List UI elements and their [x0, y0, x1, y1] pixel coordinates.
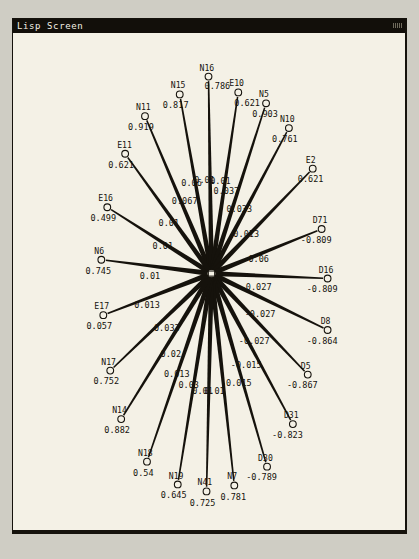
node-circle-icon[interactable] [286, 125, 293, 132]
graph-node[interactable]: E170.057 [86, 301, 112, 331]
edge-weight-label: -0.027 [245, 309, 276, 319]
node-value-label: 0.903 [252, 109, 278, 119]
edge-weight-label: 0.067 [172, 196, 198, 206]
node-name-label: N41 [198, 477, 213, 487]
graph-node[interactable]: E100.621 [229, 78, 260, 108]
node-value-label: -0.867 [287, 380, 318, 390]
node-name-label: N18 [138, 448, 153, 458]
edge-weight-label: -0.015 [231, 360, 262, 370]
node-value-label: 0.817 [163, 100, 189, 110]
node-name-label: D16 [319, 265, 334, 275]
edge-weight-label: 0.01 [210, 176, 231, 186]
node-name-label: N16 [200, 63, 215, 73]
node-circle-icon[interactable] [100, 312, 107, 319]
node-name-label: E10 [229, 78, 244, 88]
node-circle-icon[interactable] [263, 100, 270, 107]
node-name-label: D31 [284, 410, 299, 420]
node-circle-icon[interactable] [205, 73, 212, 80]
node-circle-icon[interactable] [142, 113, 149, 120]
node-value-label: 0.781 [220, 492, 246, 502]
node-circle-icon[interactable] [107, 367, 114, 374]
node-name-label: D8 [321, 316, 331, 326]
graph-canvas[interactable]: 0.0670.060.010.010.0370.0330.013-0.06-0.… [13, 33, 405, 530]
node-value-label: 0.761 [272, 134, 298, 144]
node-circle-icon[interactable] [144, 458, 151, 465]
node-circle-icon[interactable] [324, 275, 331, 282]
node-circle-icon[interactable] [98, 256, 105, 263]
node-circle-icon[interactable] [174, 481, 181, 488]
graph-edge [214, 273, 324, 329]
edge-weight-label: 0.01 [153, 241, 174, 251]
node-circle-icon[interactable] [289, 421, 296, 428]
node-value-label: -0.809 [301, 235, 332, 245]
node-name-label: N15 [171, 80, 186, 90]
graph-node[interactable]: E110.621 [108, 140, 134, 170]
node-circle-icon[interactable] [304, 371, 311, 378]
node-value-label: 0.745 [85, 266, 111, 276]
edge-weight-label: -0.027 [239, 336, 270, 346]
node-circle-icon[interactable] [176, 91, 183, 98]
node-value-label: -0.809 [307, 284, 338, 294]
lisp-screen-window: Lisp Screen 0.0670.060.010.010.0370.0330… [12, 18, 407, 534]
graph-node[interactable]: E20.621 [298, 155, 324, 185]
edge-weight-label: -0.027 [241, 282, 272, 292]
graph-node[interactable]: N190.645 [161, 471, 187, 501]
graph-node[interactable]: E160.499 [90, 193, 116, 223]
node-value-label: 0.786 [205, 81, 231, 91]
graph-node[interactable]: D71-0.809 [301, 215, 332, 245]
node-name-label: N19 [169, 471, 184, 481]
node-circle-icon[interactable] [104, 204, 111, 211]
radial-graph-svg[interactable]: 0.0670.060.010.010.0370.0330.013-0.06-0.… [13, 33, 405, 530]
node-circle-icon[interactable] [309, 165, 316, 172]
graph-node[interactable]: N150.817 [163, 80, 189, 110]
graph-node[interactable]: N180.54 [133, 448, 154, 478]
graph-node[interactable]: N110.919 [128, 102, 154, 132]
graph-node[interactable]: N170.752 [93, 357, 119, 387]
hub-node-circle-icon[interactable] [208, 271, 214, 276]
node-circle-icon[interactable] [264, 463, 271, 470]
node-name-label: D30 [258, 453, 273, 463]
edge-weight-label: 0.013 [134, 300, 160, 310]
graph-node[interactable]: D5-0.867 [287, 361, 318, 391]
edge-weight-label: -0.06 [243, 254, 269, 264]
node-circle-icon[interactable] [118, 416, 125, 423]
node-circle-icon[interactable] [122, 150, 129, 157]
edge-weight-label: 0.033 [154, 323, 180, 333]
node-name-label: N5 [259, 89, 269, 99]
hub-node-value-label: 0.89 [201, 277, 222, 287]
graph-node[interactable]: N410.725 [190, 477, 216, 508]
node-value-label: 0.919 [128, 122, 154, 132]
graph-node[interactable]: N140.882 [104, 405, 130, 435]
graph-node[interactable]: D8-0.864 [307, 316, 338, 346]
node-value-label: -0.864 [307, 336, 338, 346]
node-value-label: 0.725 [190, 498, 216, 508]
edge-weight-label: 0.02 [161, 349, 182, 359]
node-circle-icon[interactable] [203, 488, 210, 495]
node-value-label: -0.789 [246, 473, 277, 483]
node-name-label: N10 [280, 114, 295, 124]
window-title: Lisp Screen [17, 21, 83, 31]
node-value-label: -0.823 [272, 430, 303, 440]
graph-node[interactable]: D30-0.789 [246, 453, 277, 483]
node-name-label: E2 [306, 155, 316, 165]
node-name-label: D71 [313, 215, 328, 225]
hub-node-name-label: N13 [204, 261, 219, 271]
node-circle-icon[interactable] [231, 482, 238, 489]
node-circle-icon[interactable] [318, 226, 325, 233]
graph-edge [215, 271, 323, 279]
graph-node[interactable]: D16-0.809 [307, 265, 338, 295]
node-name-label: N7 [227, 472, 237, 482]
node-name-label: D5 [301, 361, 311, 371]
edge-weight-label: 0.01 [140, 271, 161, 281]
node-circle-icon[interactable] [324, 327, 331, 334]
edge-weight-label: 0.013 [164, 369, 190, 379]
graph-node[interactable]: N160.786 [200, 63, 231, 92]
window-titlebar[interactable]: Lisp Screen [13, 19, 405, 33]
graph-node[interactable]: D31-0.823 [272, 410, 303, 440]
graph-node[interactable]: N70.781 [220, 472, 246, 503]
node-circle-icon[interactable] [235, 89, 242, 96]
edge-weight-label: 0.013 [233, 229, 259, 239]
node-value-label: 0.057 [86, 321, 112, 331]
node-name-label: N14 [112, 405, 127, 415]
edge-weight-label: 0.03 [178, 380, 199, 390]
